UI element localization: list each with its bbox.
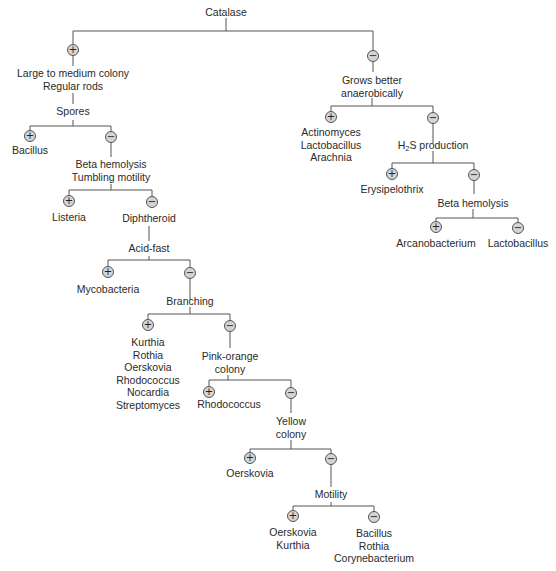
- node-mycobacteria: Mycobacteria: [77, 283, 139, 296]
- node-branching-positive: Kurthia Rothia Oerskovia Rhodococcus Noc…: [116, 336, 180, 411]
- plus-icon: +: [287, 510, 299, 522]
- node-diphtheroid: Diphtheroid: [122, 212, 176, 225]
- h2s-suffix: S production: [409, 139, 468, 151]
- node-bacillus: Bacillus: [12, 144, 48, 157]
- plus-icon: +: [203, 386, 215, 398]
- minus-icon: −: [184, 267, 196, 279]
- minus-icon: −: [105, 131, 117, 143]
- plus-icon: +: [244, 452, 256, 464]
- node-h2s-production: H2S production: [398, 139, 469, 156]
- minus-icon: −: [224, 320, 236, 332]
- node-catalase: Catalase: [205, 6, 246, 19]
- node-oerskovia: Oerskovia: [226, 467, 273, 480]
- node-yellow-colony: Yellow colony: [276, 415, 306, 440]
- minus-icon: −: [146, 196, 158, 208]
- minus-icon: −: [468, 169, 480, 181]
- node-anaerobic: Grows better anaerobically: [341, 74, 403, 99]
- plus-icon: +: [24, 130, 36, 142]
- plus-icon: +: [67, 44, 79, 56]
- minus-icon: −: [325, 453, 337, 465]
- node-acid-fast: Acid-fast: [129, 242, 170, 255]
- node-lactobacillus: Lactobacillus: [488, 237, 549, 250]
- node-motility-positive: Oerskovia Kurthia: [269, 526, 316, 551]
- node-beta-hemolysis: Beta hemolysis: [437, 197, 508, 210]
- plus-icon: +: [430, 221, 442, 233]
- node-listeria: Listeria: [52, 211, 86, 224]
- minus-icon: −: [285, 387, 297, 399]
- node-pink-orange: Pink-orange colony: [202, 350, 259, 375]
- node-motility: Motility: [315, 488, 348, 501]
- node-arcanobacterium: Arcanobacterium: [396, 237, 475, 250]
- minus-icon: −: [512, 222, 524, 234]
- minus-icon: −: [368, 511, 380, 523]
- plus-icon: +: [386, 168, 398, 180]
- node-large-colony: Large to medium colony Regular rods: [17, 67, 129, 92]
- node-branching: Branching: [166, 295, 213, 308]
- plus-icon: +: [102, 266, 114, 278]
- minus-icon: −: [427, 112, 439, 124]
- minus-icon: −: [367, 50, 379, 62]
- node-erysipelothrix: Erysipelothrix: [360, 183, 423, 196]
- node-rhodococcus: Rhodococcus: [197, 398, 261, 411]
- plus-icon: +: [142, 319, 154, 331]
- node-motility-negative: Bacillus Rothia Corynebacterium: [334, 527, 414, 565]
- h2s-h: H: [398, 139, 406, 151]
- node-spores: Spores: [56, 105, 89, 118]
- node-beta-tumbling: Beta hemolysis Tumbling motility: [72, 158, 150, 183]
- plus-icon: +: [63, 195, 75, 207]
- node-anaerobic-positive: Actinomyces Lactobacillus Arachnia: [301, 126, 362, 164]
- plus-icon: +: [325, 111, 337, 123]
